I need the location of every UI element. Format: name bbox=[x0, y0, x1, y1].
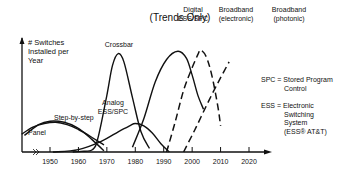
curves bbox=[22, 50, 230, 152]
annotation-crossbar: Crossbar bbox=[105, 41, 134, 48]
x-tick-label-1950: 1950 bbox=[42, 158, 58, 165]
annotation-broadband-photonic: Broadband(photonic) bbox=[272, 6, 306, 23]
annotation-analog-ess-spc: AnalogESS/SPC bbox=[98, 99, 128, 115]
series-line-analog-ess-spc bbox=[53, 124, 170, 153]
legend-note-spc: SPC = Stored ProgramControl bbox=[261, 76, 333, 92]
legend-notes: SPC = Stored ProgramControlESS = Electro… bbox=[261, 76, 333, 136]
series-line-broadband-electronic bbox=[167, 50, 221, 152]
annotations: PanelStep-by-stepCrossbarAnalogESS/SPCDi… bbox=[28, 6, 306, 136]
x-tick-label-1960: 1960 bbox=[71, 158, 87, 165]
x-tick-label-2020: 2020 bbox=[241, 158, 257, 165]
series-line-broadband-photonic bbox=[184, 62, 229, 152]
switch-trends-chart: # SwitchesInstalled perYear(Trends Only)… bbox=[0, 0, 345, 178]
annotation-step-by-step: Step-by-step bbox=[54, 114, 94, 122]
y-axis-label: # SwitchesInstalled perYear bbox=[28, 38, 69, 65]
x-tick-label-1980: 1980 bbox=[127, 158, 143, 165]
x-tick-label-1970: 1970 bbox=[99, 158, 115, 165]
x-tick-label-1990: 1990 bbox=[156, 158, 172, 165]
legend-note-ess: ESS = ElectronicSwitchingSystem(ESS® AT&… bbox=[261, 102, 327, 136]
annotation-digital-ess-spc: DigitalESS/SPC bbox=[178, 6, 208, 22]
y-axis-arrow bbox=[20, 37, 25, 44]
annotation-broadband-electronic: Broadband(electronic) bbox=[219, 6, 254, 23]
axes: # SwitchesInstalled perYear(Trends Only) bbox=[20, 12, 273, 155]
x-tick-label-2000: 2000 bbox=[184, 158, 200, 165]
annotation-panel: Panel bbox=[28, 129, 46, 136]
x-axis-arrow bbox=[264, 150, 272, 155]
x-tick-label-2010: 2010 bbox=[213, 158, 229, 165]
